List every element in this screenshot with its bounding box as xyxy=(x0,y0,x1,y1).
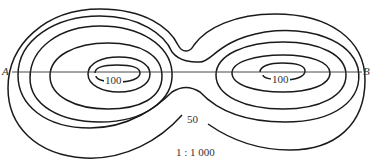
outer-contours xyxy=(8,9,365,158)
point-a-label: A xyxy=(2,66,9,77)
outer-contour-elevation-label: 50 xyxy=(187,114,198,125)
contour-lines xyxy=(0,0,373,167)
scale-label: 1 : 1 000 xyxy=(176,147,215,158)
point-b-label: B xyxy=(363,66,370,77)
left-peak-elevation-label: 100 xyxy=(104,75,123,86)
right-peak-elevation-label: 100 xyxy=(271,74,290,85)
left-hill xyxy=(30,26,172,122)
outer-contour-50 xyxy=(8,9,365,158)
contour-map: A B 100 100 50 1 : 1 000 xyxy=(0,0,373,167)
left-contour-ring-4 xyxy=(30,26,172,122)
